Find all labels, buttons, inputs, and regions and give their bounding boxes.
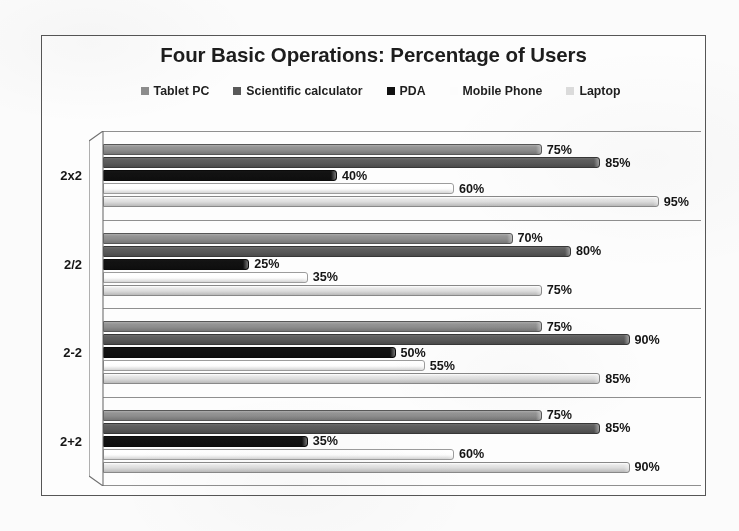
bar-value-label: 75% <box>547 320 572 334</box>
legend-label: Mobile Phone <box>463 84 543 98</box>
bar[interactable] <box>103 373 600 384</box>
legend-label: Scientific calculator <box>246 84 362 98</box>
bar-value-label: 90% <box>635 460 660 474</box>
bar-row: 50% <box>103 347 701 358</box>
legend-item-pda[interactable]: PDA <box>387 84 426 98</box>
bar[interactable] <box>103 196 659 207</box>
bar-row: 90% <box>103 462 701 473</box>
bar[interactable] <box>103 157 600 168</box>
bar-value-label: 40% <box>342 169 367 183</box>
bar-value-label: 85% <box>605 156 630 170</box>
bar[interactable] <box>103 246 571 257</box>
bar-group: 75%85%35%60%90% <box>103 397 701 487</box>
bar[interactable] <box>103 170 337 181</box>
bar-value-label: 25% <box>254 257 279 271</box>
legend-swatch-icon <box>450 87 458 95</box>
bar-row: 75% <box>103 410 701 421</box>
bar-value-label: 70% <box>518 231 543 245</box>
bar[interactable] <box>103 436 308 447</box>
bar-value-label: 55% <box>430 359 455 373</box>
bar-groups: 75%85%40%60%95%70%80%25%35%75%75%90%50%5… <box>103 131 701 486</box>
bar[interactable] <box>103 462 630 473</box>
bar-value-label: 75% <box>547 408 572 422</box>
bar-row: 85% <box>103 157 701 168</box>
legend-label: Laptop <box>579 84 620 98</box>
legend-label: Tablet PC <box>154 84 210 98</box>
bar-row: 55% <box>103 360 701 371</box>
bar-row: 85% <box>103 373 701 384</box>
bar-value-label: 85% <box>605 421 630 435</box>
legend-item-laptop[interactable]: Laptop <box>566 84 620 98</box>
bar-value-label: 60% <box>459 447 484 461</box>
bar-value-label: 50% <box>401 346 426 360</box>
bar-row: 80% <box>103 246 701 257</box>
legend-swatch-icon <box>141 87 149 95</box>
bar[interactable] <box>103 144 542 155</box>
bar-row: 70% <box>103 233 701 244</box>
bar[interactable] <box>103 272 308 283</box>
bar-value-label: 85% <box>605 372 630 386</box>
bar-row: 35% <box>103 436 701 447</box>
chart-title: Four Basic Operations: Percentage of Use… <box>42 43 705 67</box>
bar-row: 75% <box>103 144 701 155</box>
bar[interactable] <box>103 360 425 371</box>
bar[interactable] <box>103 423 600 434</box>
bar-group: 75%90%50%55%85% <box>103 308 701 397</box>
bar[interactable] <box>103 449 454 460</box>
bar-row: 35% <box>103 272 701 283</box>
bar[interactable] <box>103 259 249 270</box>
bar-row: 85% <box>103 423 701 434</box>
bar-row: 75% <box>103 321 701 332</box>
legend-swatch-icon <box>387 87 395 95</box>
bar[interactable] <box>103 321 542 332</box>
bar-value-label: 80% <box>576 244 601 258</box>
bar-value-label: 35% <box>313 270 338 284</box>
chart-legend: Tablet PC Scientific calculator PDA Mobi… <box>42 84 705 98</box>
legend-swatch-icon <box>566 87 574 95</box>
bar-value-label: 75% <box>547 143 572 157</box>
bar[interactable] <box>103 285 542 296</box>
bar-group: 75%85%40%60%95% <box>103 131 701 220</box>
bar-value-label: 60% <box>459 182 484 196</box>
chart-page: Four Basic Operations: Percentage of Use… <box>0 0 739 531</box>
bar[interactable] <box>103 334 630 345</box>
y-axis-tick-label: 2x2 <box>41 131 87 220</box>
y-axis-tick-label: 2+2 <box>41 397 87 486</box>
bar[interactable] <box>103 233 513 244</box>
bar-value-label: 35% <box>313 434 338 448</box>
legend-swatch-icon <box>233 87 241 95</box>
bar-value-label: 95% <box>664 195 689 209</box>
bar-row: 25% <box>103 259 701 270</box>
bar-value-label: 90% <box>635 333 660 347</box>
bar[interactable] <box>103 183 454 194</box>
legend-item-tablet-pc[interactable]: Tablet PC <box>141 84 210 98</box>
bar-row: 75% <box>103 285 701 296</box>
chart-frame: Four Basic Operations: Percentage of Use… <box>41 35 706 496</box>
legend-item-scientific-calculator[interactable]: Scientific calculator <box>233 84 362 98</box>
legend-label: PDA <box>400 84 426 98</box>
legend-item-mobile-phone[interactable]: Mobile Phone <box>450 84 543 98</box>
bar-row: 90% <box>103 334 701 345</box>
plot-area: 75%85%40%60%95%70%80%25%35%75%75%90%50%5… <box>89 131 701 486</box>
y-axis-tick-labels: 2x2 2/2 2-2 2+2 <box>41 131 87 486</box>
y-axis-tick-label: 2/2 <box>41 220 87 309</box>
bar[interactable] <box>103 410 542 421</box>
bar-group: 70%80%25%35%75% <box>103 220 701 309</box>
bar-row: 60% <box>103 183 701 194</box>
y-axis-tick-label: 2-2 <box>41 309 87 398</box>
bar-row: 95% <box>103 196 701 207</box>
bar-value-label: 75% <box>547 283 572 297</box>
bar-row: 60% <box>103 449 701 460</box>
bar-row: 40% <box>103 170 701 181</box>
bar[interactable] <box>103 347 396 358</box>
